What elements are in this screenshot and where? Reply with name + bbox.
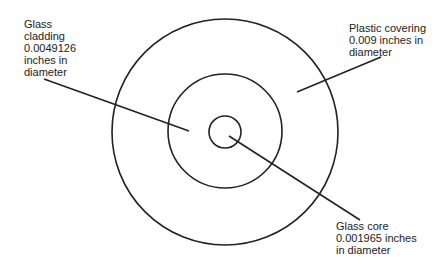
label-line: in diameter — [336, 244, 417, 256]
label-line: Glass core — [336, 220, 417, 232]
glass-cladding-label: Glass cladding 0.0049126 inches in diame… — [24, 18, 76, 78]
label-line: diameter — [349, 46, 426, 58]
label-line: inches in — [24, 54, 76, 66]
label-line: cladding — [24, 30, 76, 42]
core-leader-line — [229, 136, 360, 220]
label-line: 0.001965 inches — [336, 232, 417, 244]
glass-cladding-circle — [168, 74, 282, 188]
label-line: 0.0049126 — [24, 42, 76, 54]
label-line: diameter — [24, 66, 76, 78]
cladding-leader-line — [44, 79, 189, 131]
plastic-covering-label: Plastic covering 0.009 inches in diamete… — [349, 22, 426, 58]
plastic-covering-circle — [112, 19, 338, 245]
glass-core-label: Glass core 0.001965 inches in diameter — [336, 220, 417, 256]
label-line: Glass — [24, 18, 76, 30]
label-line: Plastic covering — [349, 22, 426, 34]
label-line: 0.009 inches in — [349, 34, 426, 46]
glass-core-circle — [209, 116, 241, 148]
covering-leader-line — [297, 57, 381, 92]
